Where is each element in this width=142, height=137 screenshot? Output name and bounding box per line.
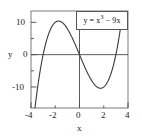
y-axis-title: y bbox=[8, 50, 13, 59]
x-tick-label-1: -2 bbox=[49, 111, 57, 120]
x-tick-label-4: 4 bbox=[125, 111, 130, 120]
y-tick-label-10: 10 bbox=[16, 18, 25, 27]
y-tick-label-0: 0 bbox=[23, 50, 28, 59]
equation-lhs: y = x bbox=[83, 16, 100, 25]
x-tick-label-2: 0 bbox=[76, 111, 81, 120]
y-tick-label-neg10: -10 bbox=[12, 83, 24, 92]
x-tick-label-0: -4 bbox=[25, 111, 33, 120]
equation-rhs: − 9x bbox=[104, 16, 121, 25]
x-tick-label-3: 2 bbox=[101, 111, 106, 120]
equation-annotation-text: y = x3 − 9x bbox=[83, 16, 120, 25]
chart-figure: -4 -2 0 2 4 10 0 -10 x y y = x3 − 9x bbox=[0, 0, 142, 137]
x-axis-title: x bbox=[77, 124, 82, 133]
equation-annotation-box: y = x3 − 9x bbox=[76, 11, 128, 30]
